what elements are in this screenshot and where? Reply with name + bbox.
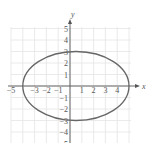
y-tick-label: −2: [59, 105, 68, 114]
x-tick-label: −2: [42, 86, 51, 95]
x-axis-label: x: [141, 82, 146, 91]
x-tick-label: 4: [115, 86, 119, 95]
y-tick-label: 1: [64, 71, 68, 80]
axes: [8, 19, 140, 143]
y-axis-label: y: [70, 10, 75, 19]
y-tick-label: 4: [64, 36, 68, 45]
x-tick-label: 2: [92, 86, 96, 95]
y-tick-label: −1: [59, 94, 68, 103]
x-tick-label: 3: [103, 86, 107, 95]
y-axis-arrow-icon: [68, 19, 72, 24]
tick-labels: −5−3−2−1123454321−1−2−3−4−5: [7, 25, 119, 144]
x-tick-label: −5: [7, 86, 16, 95]
x-axis-arrow-icon: [135, 84, 140, 88]
y-tick-label: 5: [64, 25, 68, 34]
ellipse-graph: −5−3−2−1123454321−1−2−3−4−5 x y: [0, 0, 150, 143]
x-tick-label: 1: [80, 86, 84, 95]
y-tick-label: −3: [59, 117, 68, 126]
y-tick-label: −4: [59, 128, 68, 137]
x-tick-label: −3: [30, 86, 39, 95]
y-tick-label: 2: [64, 59, 68, 68]
y-tick-label: −5: [59, 140, 68, 144]
grid-lines: [11, 27, 131, 143]
